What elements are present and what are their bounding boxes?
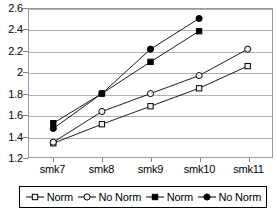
data-point-open-circle	[99, 108, 105, 114]
legend-label: Norm	[167, 192, 193, 203]
series-2	[51, 29, 202, 126]
y-tick-label: 1.6	[8, 110, 23, 121]
data-point-filled-square	[196, 29, 201, 34]
data-point-open-square	[245, 63, 250, 68]
line-chart: 2.62.42.221.81.61.41.2 smk7smk8smk9smk10…	[0, 0, 277, 214]
x-tick-mark	[200, 158, 201, 162]
series-0	[51, 63, 251, 145]
data-point-filled-square	[148, 59, 153, 64]
data-point-open-circle	[245, 46, 251, 52]
series-line	[53, 31, 199, 123]
x-tick-label: smk7	[40, 163, 65, 175]
y-tick-label: 1.2	[8, 153, 23, 164]
data-point-open-square	[32, 194, 37, 199]
y-tick-label: 2.4	[8, 24, 23, 35]
series-lines	[29, 9, 272, 157]
data-point-open-square	[196, 86, 201, 91]
data-point-open-circle	[50, 139, 56, 145]
x-tick-label: smk9	[138, 163, 163, 175]
legend-label: No Norm	[219, 192, 262, 203]
data-point-filled-circle	[99, 91, 105, 97]
x-tick-label: smk8	[89, 163, 114, 175]
chart-legend: NormNo NormNormNo Norm	[19, 186, 267, 208]
legend-marker-filled-square-icon	[145, 192, 165, 202]
legend-label: No Norm	[99, 192, 142, 203]
y-tick-label: 2.6	[8, 3, 23, 14]
x-tick-mark	[151, 158, 152, 162]
plot-area	[28, 8, 273, 158]
x-tick-label: smk11	[233, 163, 264, 175]
legend-marker-open-circle-icon	[77, 192, 97, 202]
y-tick-label: 1.4	[8, 131, 23, 142]
legend-marker-filled-circle-icon	[197, 192, 217, 202]
data-point-filled-circle	[147, 46, 153, 52]
x-axis: smk7smk8smk9smk10smk11	[28, 163, 273, 179]
series-line	[53, 19, 199, 129]
legend-entry-0[interactable]: Norm	[25, 192, 73, 203]
data-point-open-square	[99, 122, 104, 127]
y-tick-label: 1.8	[8, 88, 23, 99]
series-3	[50, 15, 202, 131]
x-tick-mark	[53, 158, 54, 162]
data-point-open-square	[148, 104, 153, 109]
x-tick-mark	[102, 158, 103, 162]
legend-entry-2[interactable]: Norm	[145, 192, 193, 203]
x-tick-label: smk10	[184, 163, 215, 175]
legend-label: Norm	[47, 192, 73, 203]
data-point-filled-circle	[196, 15, 202, 21]
legend-entry-1[interactable]: No Norm	[77, 192, 142, 203]
data-point-filled-circle	[203, 194, 209, 200]
legend-marker-open-square-icon	[25, 192, 45, 202]
plot-block: 2.62.42.221.81.61.41.2 smk7smk8smk9smk10…	[0, 0, 277, 180]
data-point-open-circle	[196, 73, 202, 79]
y-tick-label: 2.2	[8, 45, 23, 56]
x-tick-mark	[249, 158, 250, 162]
data-point-open-circle	[83, 194, 89, 200]
legend-entry-3[interactable]: No Norm	[197, 192, 262, 203]
data-point-filled-square	[152, 194, 157, 199]
data-point-filled-circle	[50, 125, 56, 131]
data-point-open-circle	[147, 91, 153, 97]
